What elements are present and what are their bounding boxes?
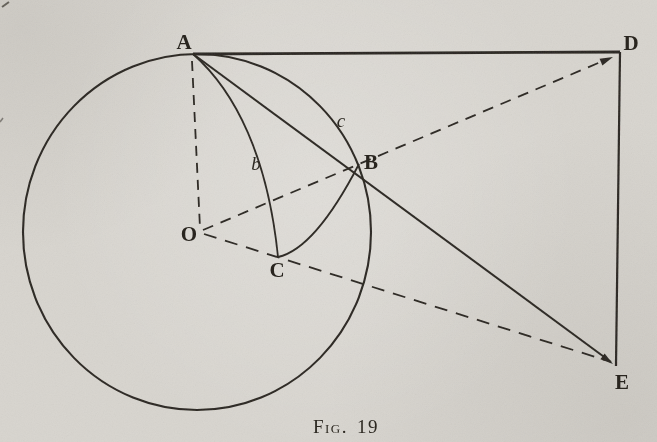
label-point-A: A <box>176 32 191 53</box>
label-point-B: B <box>364 152 378 173</box>
label-point-O: O <box>181 224 197 245</box>
figure-caption-word: Fig. <box>313 416 348 437</box>
figure-caption: Fig.19 <box>313 416 379 438</box>
scanned-book-figure: A D B O C E b c Fig.19 <box>0 0 657 442</box>
label-point-E: E <box>615 372 629 393</box>
label-point-C: C <box>269 260 284 281</box>
figure-caption-number: 19 <box>357 416 379 437</box>
paper-grain-texture <box>0 0 657 442</box>
figure-19-diagram <box>0 0 657 442</box>
label-arc-c: c <box>337 111 345 130</box>
label-point-D: D <box>623 33 638 54</box>
label-arc-b: b <box>251 154 261 173</box>
